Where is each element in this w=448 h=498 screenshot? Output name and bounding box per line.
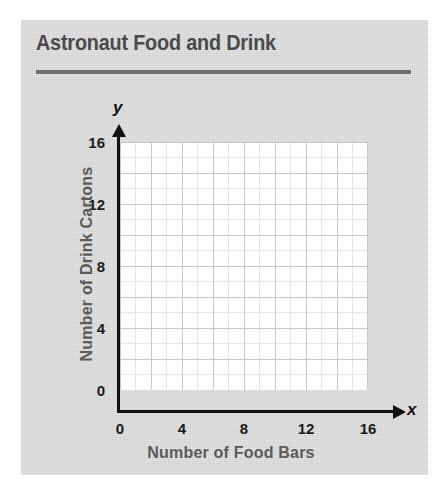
y-axis-letter: y (113, 98, 122, 118)
x-tick-label-4: 4 (167, 420, 197, 437)
chart-card: Astronaut Food and Drink y x 0 4 8 12 16… (21, 20, 428, 475)
x-tick-label-12: 12 (291, 420, 321, 437)
x-tick-label-8: 8 (229, 420, 259, 437)
x-axis-letter: x (407, 400, 416, 420)
y-axis-line (117, 135, 120, 413)
plot-grid-area (120, 142, 368, 390)
x-tick-label-0: 0 (105, 420, 135, 437)
y-axis-arrow-icon (112, 124, 126, 137)
y-axis-title: Number of Drink Cartons (78, 134, 96, 394)
coordinate-graph: y x 0 4 8 12 16 0 4 8 12 16 Number of Fo… (21, 80, 428, 475)
x-axis-arrow-icon (393, 405, 406, 419)
page-title: Astronaut Food and Drink (36, 30, 276, 56)
page-root: Astronaut Food and Drink y x 0 4 8 12 16… (0, 0, 448, 498)
x-tick-label-16: 16 (353, 420, 383, 437)
title-divider (36, 70, 411, 74)
x-axis-line (117, 410, 395, 413)
x-axis-title: Number of Food Bars (81, 444, 381, 462)
